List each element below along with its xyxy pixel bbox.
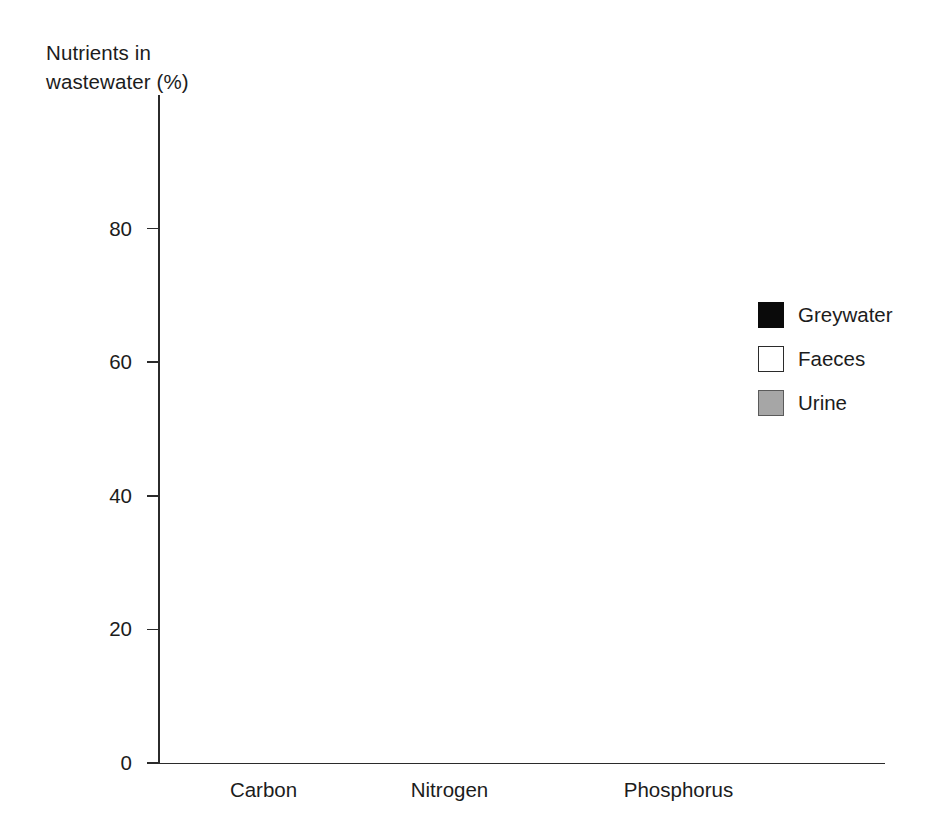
legend-swatch-greywater-icon xyxy=(758,302,784,328)
chart-legend: GreywaterFaecesUrine xyxy=(758,293,893,425)
chart-figure: Nutrients in wastewater (%) 806040200 Ca… xyxy=(0,0,931,837)
y-tick-20 xyxy=(147,629,159,631)
y-tick-80 xyxy=(147,228,159,230)
y-tick-label: 20 xyxy=(72,617,132,641)
legend-swatch-faeces-icon xyxy=(758,346,784,372)
legend-label: Greywater xyxy=(798,303,893,327)
y-tick-label: 40 xyxy=(72,484,132,508)
x-category-label-nitrogen: Nitrogen xyxy=(411,778,489,802)
y-axis-line xyxy=(158,95,160,764)
legend-item-faeces: Faeces xyxy=(758,337,893,381)
y-tick-label: 80 xyxy=(72,217,132,241)
y-tick-0 xyxy=(147,762,159,764)
legend-swatch-urine-icon xyxy=(758,390,784,416)
legend-item-greywater: Greywater xyxy=(758,293,893,337)
y-tick-label: 60 xyxy=(72,350,132,374)
y-tick-40 xyxy=(147,495,159,497)
x-category-label-phosphorus: Phosphorus xyxy=(624,778,733,802)
legend-item-urine: Urine xyxy=(758,381,893,425)
x-axis-line xyxy=(158,763,885,765)
legend-label: Faeces xyxy=(798,347,865,371)
legend-label: Urine xyxy=(798,391,847,415)
y-tick-60 xyxy=(147,361,159,363)
y-tick-label: 0 xyxy=(72,751,132,775)
x-category-label-carbon: Carbon xyxy=(230,778,297,802)
